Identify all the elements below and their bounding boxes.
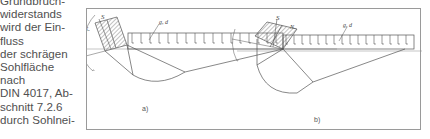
force-label-s-b: S <box>276 14 280 22</box>
text-line: Grundbruch- <box>0 0 82 7</box>
text-line: durch Sohlnei- <box>0 113 82 126</box>
caption-b: b) <box>314 116 320 124</box>
text-line: DIN 4017, Ab- <box>0 86 82 99</box>
body-text-column: Grundbruch- widerstands wird der Ein- fl… <box>0 0 82 126</box>
text-line: fluss <box>0 34 82 47</box>
text-line: der schrägen <box>0 47 82 60</box>
caption-a: a) <box>142 105 148 113</box>
normal-label: Nᵤ <box>87 26 90 32</box>
text-line: schnitt 7.2.6 <box>0 100 82 113</box>
foundation-failure-figure: S Nᵤ g, d a) <box>86 8 421 130</box>
figure-drawing: S Nᵤ g, d a) <box>87 9 422 131</box>
text-line: wird der Ein- <box>0 20 82 33</box>
normal-label-b: Nᵤ <box>289 24 296 30</box>
text-line: Sohlfläche <box>0 60 82 73</box>
load-label: g, d <box>159 19 169 25</box>
panel-b-diagram <box>232 19 422 93</box>
force-label-s: S <box>101 13 105 21</box>
text-line: nach <box>0 73 82 86</box>
panel-a-diagram <box>87 15 337 81</box>
text-line: widerstands <box>0 7 82 20</box>
load-label-b: g, d <box>343 22 353 28</box>
